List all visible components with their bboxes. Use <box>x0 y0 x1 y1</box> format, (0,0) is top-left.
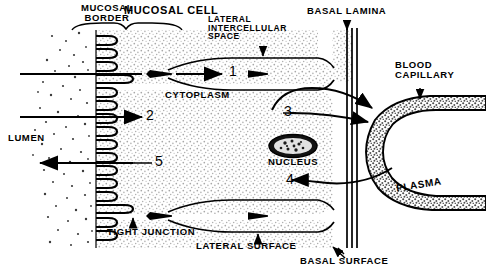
nucleus <box>269 135 317 158</box>
label-lumen: LUMEN <box>8 133 45 143</box>
label-nucleus: NUCLEUS <box>268 157 318 167</box>
label-tight-junction: TIGHT JUNCTION <box>107 227 195 237</box>
label-blood-capillary: BLOOD CAPILLARY <box>395 60 454 79</box>
pathway-number-5: 5 <box>155 153 163 169</box>
label-basal-surface: BASAL SURFACE <box>300 256 388 266</box>
cytoplasm-region <box>96 30 352 248</box>
blood-capillary <box>366 96 486 210</box>
pathway-number-2: 2 <box>146 107 154 123</box>
diagram-canvas: MUCOSAL BORDER MUCOSAL CELL LATERAL INTE… <box>0 0 486 271</box>
label-basal-lamina: BASAL LAMINA <box>307 6 386 16</box>
pathway-number-4: 4 <box>286 171 294 187</box>
label-mucosal-cell: MUCOSAL CELL <box>124 5 218 16</box>
label-lateral-intercellular-space: LATERAL INTERCELLULAR SPACE <box>208 15 287 41</box>
pathway-number-3: 3 <box>284 103 292 119</box>
mucosal-border-brace <box>72 23 182 30</box>
label-lateral-surface: LATERAL SURFACE <box>196 241 296 251</box>
pathway-number-1: 1 <box>229 63 237 79</box>
label-cytoplasm: CYTOPLASM <box>165 90 230 100</box>
